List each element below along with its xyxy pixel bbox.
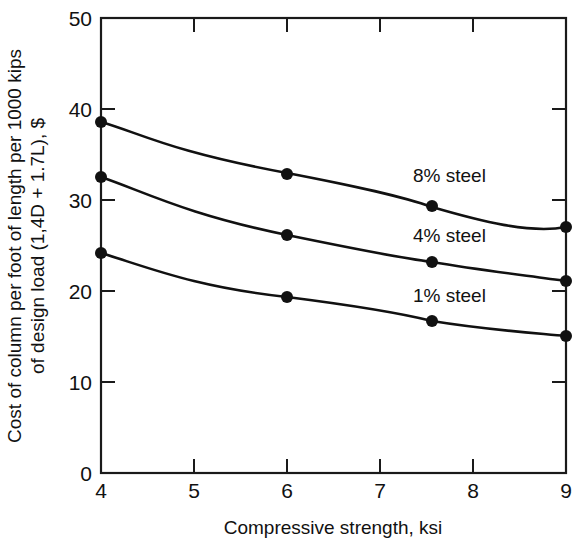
y-tick-label-20: 20: [69, 280, 92, 303]
y-tick-label-10: 10: [69, 371, 92, 394]
y-axis-title-line1: Cost of column per foot of length per 10…: [4, 49, 25, 443]
data-point: [560, 330, 572, 342]
data-point: [426, 256, 438, 268]
y-tick-label-30: 30: [69, 189, 92, 212]
data-point: [560, 275, 572, 287]
chart-page: 50 40 30 20 10 0 4 5 6 7 8 9 Compressive…: [0, 0, 575, 549]
y-tick-label-50: 50: [69, 7, 92, 30]
data-point: [281, 168, 293, 180]
x-tick-label-8: 8: [467, 479, 479, 502]
y-axis-title-line2: of design load (1,4D + 1.7L), $: [27, 117, 48, 374]
series-label-8-percent-steel: 8% steel: [413, 165, 486, 186]
x-tick-label-9: 9: [560, 479, 572, 502]
data-point: [95, 171, 107, 183]
x-tick-label-6: 6: [281, 479, 293, 502]
x-axis-title: Compressive strength, ksi: [224, 517, 443, 538]
y-tick-label-0: 0: [80, 462, 92, 485]
y-tick-label-40: 40: [69, 98, 92, 121]
data-point: [95, 247, 107, 259]
x-tick-label-5: 5: [188, 479, 200, 502]
data-point: [95, 116, 107, 128]
data-point: [426, 200, 438, 212]
x-tick-label-4: 4: [95, 479, 107, 502]
cost-vs-compressive-strength-chart: 50 40 30 20 10 0 4 5 6 7 8 9 Compressive…: [0, 0, 575, 549]
data-point: [560, 221, 572, 233]
series-label-4-percent-steel: 4% steel: [413, 225, 486, 246]
data-point: [426, 315, 438, 327]
x-tick-label-7: 7: [374, 479, 386, 502]
data-point: [281, 229, 293, 241]
data-point: [281, 291, 293, 303]
series-label-1-percent-steel: 1% steel: [413, 285, 486, 306]
